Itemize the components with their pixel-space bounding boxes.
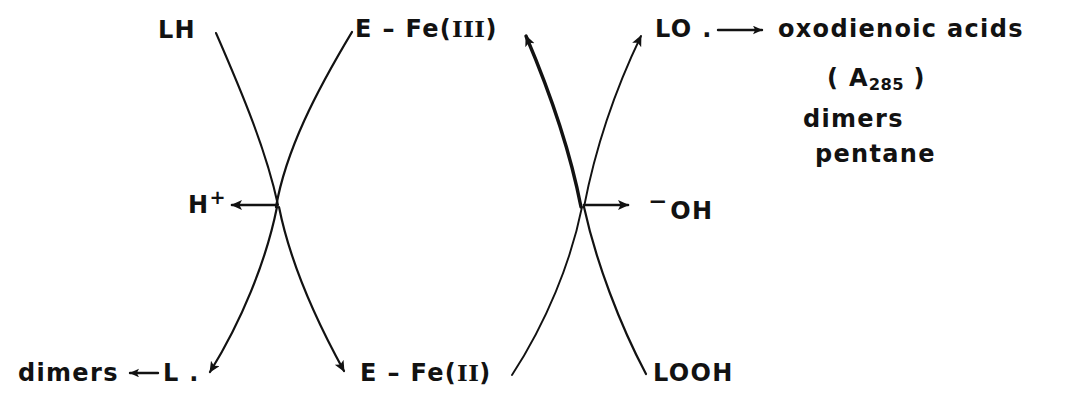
curve-crossing-to-lo-radical <box>584 36 641 207</box>
curve-crossing-to-ldot <box>210 207 277 372</box>
curve-looh-to-crossing <box>584 207 646 374</box>
label-enzyme-fe2: E – Fe(II) <box>360 361 492 385</box>
reaction-scheme-diagram: LH E – Fe(III) LO . oxodienoic acids ( A… <box>0 0 1065 415</box>
a285-open: ( A <box>827 64 869 92</box>
proton-charge: + <box>209 186 226 209</box>
label-enzyme-fe2-suffix: ) <box>479 359 491 387</box>
label-hydroperoxide: LOOH <box>653 361 734 385</box>
roman-numeral-three: III <box>452 16 485 42</box>
curve-crossing-to-efe2 <box>279 207 344 371</box>
label-enzyme-fe3: E – Fe(III) <box>355 17 498 41</box>
label-alkoxyl-radical: LO . <box>655 17 713 41</box>
label-enzyme-fe3-prefix: E – Fe( <box>355 15 452 43</box>
roman-numeral-two: II <box>457 360 479 386</box>
label-dimers-left: dimers <box>18 361 119 385</box>
curve-crossing-to-efe3 <box>276 32 352 207</box>
label-enzyme-fe2-prefix: E – Fe( <box>360 359 457 387</box>
label-hydroxide: −OH <box>648 190 713 223</box>
label-products-pentane: pentane <box>815 142 936 166</box>
proton-symbol: H <box>188 191 209 219</box>
label-proton: H+ <box>188 188 227 217</box>
label-absorbance-285: ( A285 ) <box>827 66 926 93</box>
curve-crossing-to-efe3-right <box>526 36 581 207</box>
curve-lh-to-crossing <box>216 33 278 205</box>
reaction-curves <box>0 0 1065 415</box>
label-lh: LH <box>158 18 196 42</box>
curve-crossing-to-efe2-right <box>512 207 582 375</box>
a285-close: ) <box>904 64 926 92</box>
label-enzyme-fe3-suffix: ) <box>485 15 497 43</box>
label-lipid-radical: L . <box>163 361 200 385</box>
label-products-dimers: dimers <box>803 107 904 131</box>
hydroxide-symbol: OH <box>670 197 713 225</box>
label-products-oxodienoic-acids: oxodienoic acids <box>778 17 1024 41</box>
a285-subscript: 285 <box>869 75 904 94</box>
hydroxide-charge: − <box>648 188 668 214</box>
